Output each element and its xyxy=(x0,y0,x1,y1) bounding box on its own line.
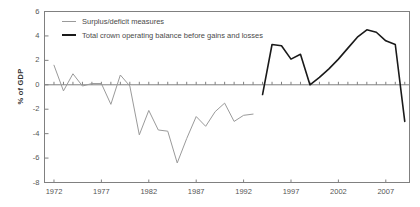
data-series-layer xyxy=(54,30,405,163)
legend-item-crown-balance: Total crown operating balance before gai… xyxy=(62,28,263,42)
x-tick-label: 1977 xyxy=(81,187,121,196)
chart-legend: Surplus/deficit measures Total crown ope… xyxy=(62,14,263,42)
y-tick-label: 4 xyxy=(18,31,40,40)
legend-label-crown-balance: Total crown operating balance before gai… xyxy=(82,31,263,40)
y-tick-label: -4 xyxy=(18,129,40,138)
x-tick-label: 1972 xyxy=(34,187,74,196)
legend-line-icon-surplus-deficit xyxy=(62,21,76,22)
y-tick-label: 6 xyxy=(18,7,40,16)
x-tick-label: 2002 xyxy=(318,187,358,196)
chart-container: % of GDP 6420-2-4-6-8 197219771982198719… xyxy=(0,0,420,207)
y-tick-label: -8 xyxy=(18,178,40,187)
y-tick-label: -2 xyxy=(18,104,40,113)
y-axis-ticks xyxy=(45,12,49,183)
legend-line-icon-crown-balance xyxy=(62,34,76,36)
y-tick-label: -6 xyxy=(18,153,40,162)
x-tick-label: 2007 xyxy=(366,187,406,196)
x-tick-label: 1997 xyxy=(271,187,311,196)
x-tick-label: 1987 xyxy=(176,187,216,196)
x-tick-label: 1992 xyxy=(224,187,264,196)
legend-label-surplus-deficit: Surplus/deficit measures xyxy=(82,17,164,26)
legend-item-surplus-deficit: Surplus/deficit measures xyxy=(62,14,263,28)
y-tick-label: 2 xyxy=(18,55,40,64)
y-tick-label: 0 xyxy=(18,80,40,89)
x-tick-label: 1982 xyxy=(129,187,169,196)
